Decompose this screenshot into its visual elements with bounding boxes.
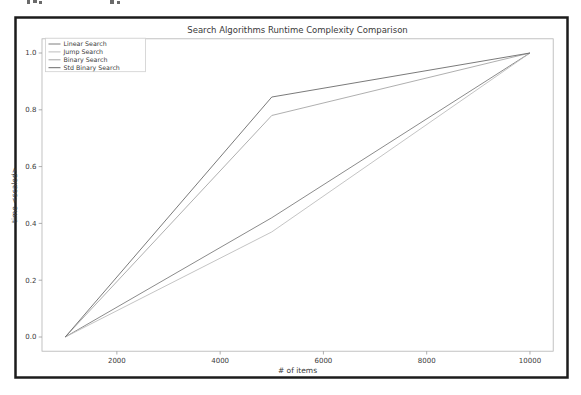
y-tick-label: 0.0 <box>25 333 36 341</box>
y-tick-label: 0.2 <box>25 277 36 285</box>
y-tick-label: 0.6 <box>25 163 37 171</box>
legend-label: Linear Search <box>64 40 107 47</box>
x-tick-label: 10000 <box>519 357 541 365</box>
scanned-page: Search Algorithms Runtime Complexity Com… <box>0 0 581 395</box>
x-axis-label: # of items <box>278 366 317 375</box>
x-tick-label: 8000 <box>418 357 436 365</box>
x-tick-label: 2000 <box>108 357 126 365</box>
y-axis-label: time <scaled> <box>10 167 19 223</box>
legend-label: Binary Search <box>64 56 108 64</box>
legend-label: Jump Search <box>63 48 104 56</box>
y-tick-label: 1.0 <box>25 49 36 57</box>
y-tick-label: 0.8 <box>25 106 36 114</box>
cropped-text-fragments <box>27 0 120 4</box>
legend-label: Std Binary Search <box>64 64 120 72</box>
x-tick-label: 4000 <box>211 357 229 365</box>
chart-title: Search Algorithms Runtime Complexity Com… <box>187 25 407 35</box>
figure-canvas: Search Algorithms Runtime Complexity Com… <box>0 0 581 395</box>
y-tick-label: 0.4 <box>25 220 37 228</box>
legend: Linear SearchJump SearchBinary SearchStd… <box>46 38 146 72</box>
x-tick-label: 6000 <box>315 357 333 365</box>
